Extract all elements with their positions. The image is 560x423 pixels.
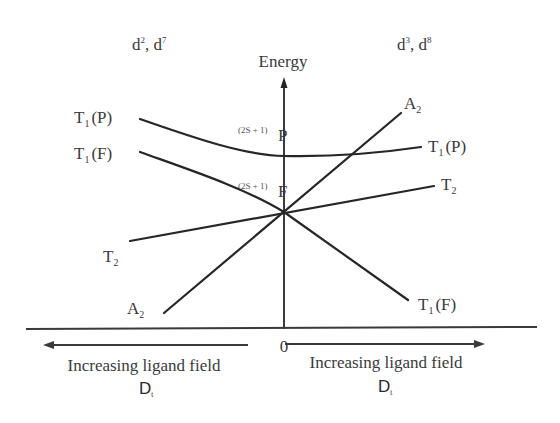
left-label-t1f: T1(F) bbox=[74, 144, 112, 165]
svg-text:T1(P): T1(P) bbox=[74, 108, 112, 129]
right-label-a2: A2 bbox=[404, 94, 421, 115]
svg-text:T1(F): T1(F) bbox=[418, 295, 456, 316]
svg-text:D: D bbox=[378, 377, 390, 396]
svg-text:T2: T2 bbox=[441, 175, 456, 196]
svg-text:(2S + 1): (2S + 1) bbox=[238, 125, 268, 135]
left-label-a2: A2 bbox=[127, 299, 144, 320]
svg-text:d3, d8: d3, d8 bbox=[397, 35, 432, 54]
svg-text:P: P bbox=[278, 126, 287, 145]
svg-text:t: t bbox=[151, 389, 154, 399]
right-label-t2: T2 bbox=[441, 175, 456, 196]
left-field-label: Increasing ligand field bbox=[68, 356, 221, 375]
right-arrow-icon bbox=[474, 340, 485, 348]
svg-text:D: D bbox=[139, 379, 151, 398]
left-arrow-icon bbox=[43, 341, 54, 349]
svg-text:A2: A2 bbox=[127, 299, 144, 320]
baseline bbox=[26, 327, 537, 329]
orgel-diagram: d2, d7 d3, d8 Energy (2S + 1) P (2S + 1)… bbox=[0, 0, 560, 423]
left-label-t1p: T1(P) bbox=[74, 108, 112, 129]
svg-text:T2: T2 bbox=[103, 247, 118, 268]
free-ion-term-p: (2S + 1) P bbox=[238, 125, 287, 145]
svg-text:F: F bbox=[278, 182, 287, 201]
right-config-label: d3, d8 bbox=[397, 35, 432, 54]
t1f-right-line bbox=[284, 212, 408, 300]
energy-axis-label: Energy bbox=[259, 52, 308, 71]
svg-text:t: t bbox=[390, 387, 393, 397]
svg-text:T1(F): T1(F) bbox=[74, 144, 112, 165]
svg-text:A2: A2 bbox=[404, 94, 421, 115]
right-label-t1p: T1(P) bbox=[428, 137, 466, 158]
svg-text:T1(P): T1(P) bbox=[428, 137, 466, 158]
right-label-t1f: T1(F) bbox=[418, 295, 456, 316]
right-field-symbol: D t bbox=[378, 377, 393, 397]
origin-label: 0 bbox=[280, 337, 289, 356]
svg-text:d2, d7: d2, d7 bbox=[132, 35, 167, 54]
right-field-label: Increasing ligand field bbox=[310, 353, 463, 372]
left-config-label: d2, d7 bbox=[132, 35, 167, 54]
left-field-symbol: D t bbox=[139, 379, 154, 399]
left-label-t2: T2 bbox=[103, 247, 118, 268]
energy-arrow-icon bbox=[281, 77, 288, 88]
